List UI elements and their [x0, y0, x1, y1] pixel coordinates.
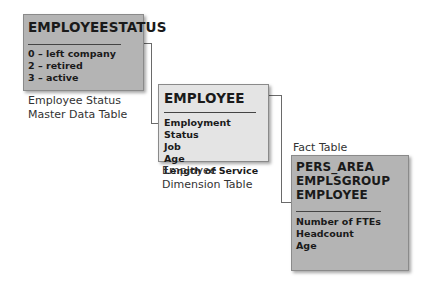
employee-attribute: Job — [164, 141, 268, 153]
fact-measure: Headcount — [296, 228, 381, 240]
fact-key: EMPLOYEE — [296, 188, 390, 202]
fact-table-box: PERS_AREA EMPLSGROUP EMPLOYEE Number of … — [291, 155, 409, 271]
employee-dimension-table-box: EMPLOYEE Employment Status Job Age Lengt… — [158, 84, 269, 162]
connector-status-to-employee — [151, 43, 152, 124]
employee-attribute: Employment Status — [164, 117, 268, 141]
separator — [296, 211, 381, 212]
employee-status-caption: Employee Status Master Data Table — [28, 94, 127, 122]
status-item: 3 – active — [28, 72, 116, 84]
fact-measure: Number of FTEs — [296, 216, 381, 228]
separator — [28, 44, 121, 45]
status-item: 0 – left company — [28, 48, 116, 60]
employee-caption: Employee Dimension Table — [162, 164, 252, 192]
fact-key: PERS_AREA — [296, 160, 390, 174]
caption-line: Master Data Table — [28, 108, 127, 122]
caption-line: Employee — [162, 164, 252, 178]
employee-status-table-title: EMPLOYEESTATUS — [28, 19, 166, 35]
fact-measure: Age — [296, 240, 381, 252]
status-item: 2 – retired — [28, 60, 116, 72]
connector-employee-to-fact — [269, 95, 281, 96]
caption-line: Employee Status — [28, 94, 127, 108]
employee-status-table-box: EMPLOYEESTATUS 0 – left company 2 – reti… — [23, 14, 144, 91]
fact-key: EMPLSGROUP — [296, 174, 390, 188]
employee-table-title: EMPLOYEE — [164, 90, 245, 106]
connector-employee-to-fact — [281, 95, 282, 203]
separator — [164, 112, 256, 113]
caption-line: Dimension Table — [162, 178, 252, 192]
fact-table-label: Fact Table — [293, 141, 347, 155]
